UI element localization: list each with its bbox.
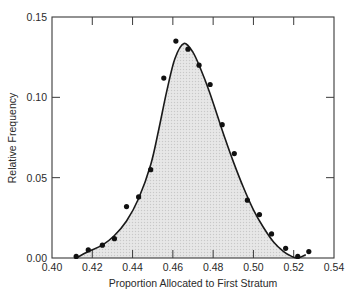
data-point [86, 247, 91, 252]
data-point [306, 249, 311, 254]
data-point [257, 212, 262, 217]
data-point [245, 198, 250, 203]
y-tick-label: 0.15 [27, 11, 48, 23]
y-tick-label: 0.05 [27, 172, 48, 184]
y-axis-label: Relative Frequency [6, 92, 18, 183]
data-point [173, 39, 178, 44]
shaded-area [76, 43, 306, 258]
y-tick-label: 0.10 [27, 91, 48, 103]
data-point [100, 243, 105, 248]
data-point [74, 254, 79, 259]
data-point [124, 204, 129, 209]
data-point [295, 254, 300, 259]
data-point [196, 63, 201, 68]
x-axis-label: Proportion Allocated to First Stratum [109, 277, 278, 289]
x-tick-label: 0.54 [324, 261, 345, 273]
x-tick-label: 0.50 [243, 261, 264, 273]
data-point [232, 151, 237, 156]
shaded-region [76, 43, 306, 258]
data-point [148, 167, 153, 172]
chart-container: 0.400.420.440.460.480.500.520.540.000.05… [0, 0, 355, 301]
data-point [136, 194, 141, 199]
data-point [220, 122, 225, 127]
data-point [283, 246, 288, 251]
x-tick-label: 0.46 [163, 261, 184, 273]
y-tick-label: 0.00 [27, 252, 48, 264]
data-point [185, 47, 190, 52]
x-tick-label: 0.48 [203, 261, 224, 273]
relative-frequency-chart: 0.400.420.440.460.480.500.520.540.000.05… [0, 0, 355, 301]
x-tick-label: 0.44 [122, 261, 143, 273]
data-point [269, 231, 274, 236]
data-point [208, 82, 213, 87]
data-point [161, 75, 166, 80]
data-point [112, 236, 117, 241]
x-tick-label: 0.42 [82, 261, 103, 273]
x-tick-label: 0.52 [283, 261, 304, 273]
